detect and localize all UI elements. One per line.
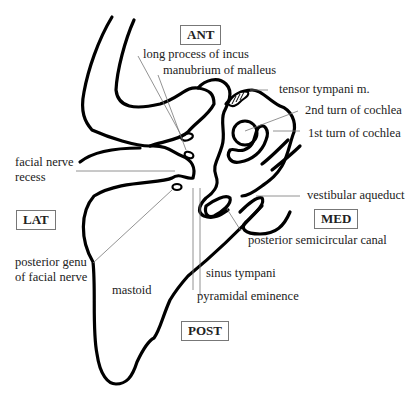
orientation-post: POST bbox=[181, 321, 229, 341]
label-facial-nerve-recess-line1: facial nerve bbox=[15, 155, 74, 170]
orientation-med: MED bbox=[314, 209, 358, 229]
label-manubrium-malleus: manubrium of malleus bbox=[163, 63, 276, 78]
label-mastoid: mastoid bbox=[112, 283, 152, 298]
cochlea-second-turn bbox=[233, 121, 257, 145]
label-posterior-genu-line2: of facial nerve bbox=[15, 270, 87, 285]
label-facial-nerve-recess-line2: recess bbox=[15, 170, 46, 185]
middle-ear-floor bbox=[80, 148, 140, 162]
vestibular-aqueduct-contour bbox=[240, 198, 290, 234]
temporal-bone-diagram: ANT LAT MED POST long process of incus m… bbox=[0, 0, 414, 400]
label-long-process-incus: long process of incus bbox=[143, 47, 249, 62]
label-posterior-semicircular-canal: posterior semicircular canal bbox=[248, 233, 387, 248]
label-vestibular-aqueduct: vestibular aqueduct bbox=[307, 188, 405, 203]
facial-nerve-genu-section bbox=[173, 184, 182, 190]
label-tensor-tympani: tensor tympani m. bbox=[279, 82, 370, 97]
label-second-turn-cochlea: 2nd turn of cochlea bbox=[305, 103, 402, 118]
posterior-semicircular-canal bbox=[205, 197, 230, 217]
orientation-ant: ANT bbox=[180, 25, 221, 45]
label-posterior-genu-line1: posterior genu bbox=[15, 255, 87, 270]
label-first-turn-cochlea: 1st turn of cochlea bbox=[308, 126, 401, 141]
orientation-lat: LAT bbox=[16, 210, 56, 230]
label-sinus-tympani: sinus tympani bbox=[206, 266, 276, 281]
label-pyramidal-eminence: pyramidal eminence bbox=[197, 289, 299, 304]
